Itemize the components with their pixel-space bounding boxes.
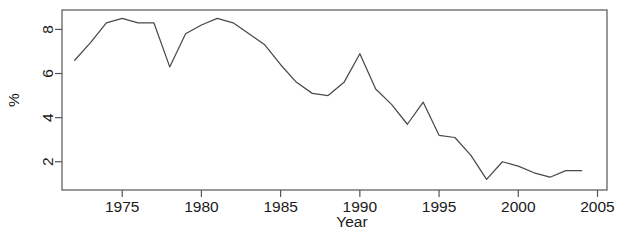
chart-figure: 2468 1975198019851990199520002005 Year % bbox=[0, 0, 635, 251]
plot-border bbox=[62, 10, 607, 190]
data-line-series bbox=[75, 18, 582, 179]
data-series-group bbox=[75, 18, 582, 179]
y-tick-label: 8 bbox=[39, 25, 56, 34]
x-tick-label: 1995 bbox=[422, 198, 456, 215]
x-axis-title: Year bbox=[336, 213, 367, 230]
y-tick-label: 4 bbox=[39, 113, 56, 122]
line-chart: 2468 1975198019851990199520002005 Year % bbox=[0, 0, 635, 251]
y-tick-label: 2 bbox=[39, 157, 56, 166]
x-axis-ticks: 1975198019851990199520002005 bbox=[105, 190, 615, 215]
x-tick-label: 1985 bbox=[263, 198, 297, 215]
y-tick-label: 6 bbox=[39, 69, 56, 78]
y-axis-ticks: 2468 bbox=[39, 25, 62, 166]
x-tick-label: 1980 bbox=[184, 198, 219, 215]
x-tick-label: 1975 bbox=[105, 198, 139, 215]
y-axis-title: % bbox=[5, 93, 22, 107]
x-tick-label: 2005 bbox=[580, 198, 614, 215]
x-tick-label: 2000 bbox=[501, 198, 536, 215]
axis-frame bbox=[62, 10, 607, 190]
